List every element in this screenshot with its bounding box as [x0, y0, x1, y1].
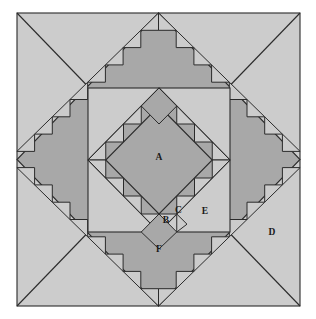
label-D: D: [269, 227, 276, 237]
label-F: F: [156, 244, 162, 254]
label-E: E: [202, 206, 208, 216]
label-B: B: [163, 215, 170, 225]
quilt-diagram: A B C D E F: [0, 0, 316, 319]
figure-root: A B C D E F: [0, 0, 316, 319]
label-C: C: [175, 205, 182, 215]
label-A: A: [156, 152, 163, 162]
